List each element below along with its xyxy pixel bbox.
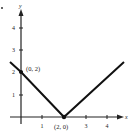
point-0-2 bbox=[19, 70, 23, 74]
graph-figure: y x 1 2 3 4 1 3 4 (0, 2) (2, 0) bbox=[0, 0, 130, 134]
y-axis-arrow-icon bbox=[19, 9, 24, 16]
y-axis-label: y bbox=[18, 3, 22, 9]
x-axis-arrow-icon bbox=[117, 115, 124, 120]
x-tick-3: 3 bbox=[85, 123, 88, 129]
y-tick-4: 4 bbox=[12, 25, 15, 31]
figure-marker bbox=[1, 7, 3, 9]
point-label-2-0: (2, 0) bbox=[54, 123, 68, 131]
y-tick-3: 3 bbox=[12, 47, 15, 53]
x-tick-1: 1 bbox=[41, 123, 44, 129]
point-label-0-2: (0, 2) bbox=[26, 65, 40, 73]
point-2-0 bbox=[62, 115, 66, 119]
x-tick-4: 4 bbox=[106, 123, 109, 129]
y-tick-1: 1 bbox=[12, 92, 15, 98]
y-tick-2: 2 bbox=[12, 69, 15, 75]
x-axis-label: x bbox=[124, 114, 128, 120]
